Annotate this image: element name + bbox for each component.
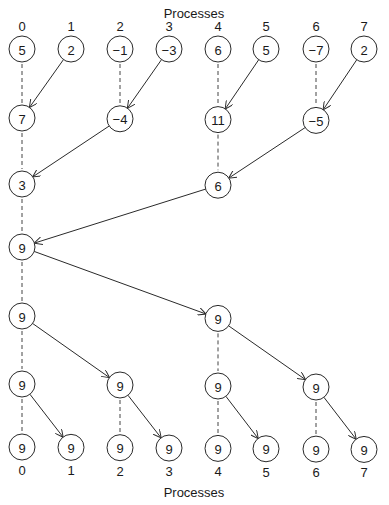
process-node: 11 [205, 107, 231, 133]
process-node: 9 [156, 435, 182, 461]
node-value: −4 [113, 112, 128, 127]
process-node: 9 [58, 434, 84, 460]
process-node: −3 [156, 36, 182, 62]
process-node: 7 [9, 105, 35, 131]
bottom-process-label: 5 [262, 465, 269, 480]
bottom-process-labels: 01234567 [18, 463, 367, 480]
node-value: 9 [18, 378, 25, 393]
node-value: 9 [312, 443, 319, 458]
reduction-broadcast-diagram: Processes Processes 52−1−365−727−411−536… [0, 0, 389, 505]
process-node: 9 [303, 374, 329, 400]
process-nodes: 52−1−365−727−411−536999999999999999 [9, 36, 377, 462]
bottom-process-label: 6 [312, 465, 319, 480]
node-value: 9 [214, 380, 221, 395]
process-node: 9 [9, 371, 35, 397]
node-value: 9 [360, 443, 367, 458]
node-value: 9 [18, 441, 25, 456]
message-arrow [33, 126, 109, 177]
node-value: 5 [18, 43, 25, 58]
top-process-label: 2 [116, 19, 123, 34]
process-node: 9 [205, 435, 231, 461]
node-value: 9 [214, 442, 221, 457]
node-value: −7 [309, 43, 324, 58]
node-value: 9 [18, 241, 25, 256]
node-value: 11 [211, 113, 225, 128]
process-node: 9 [253, 436, 279, 462]
process-node: 9 [303, 436, 329, 462]
node-value: 6 [214, 43, 221, 58]
top-process-label: 7 [360, 19, 367, 34]
node-value: −5 [309, 114, 324, 129]
message-arrow [324, 397, 356, 438]
local-carry-lines [22, 64, 316, 434]
message-arrow [229, 326, 305, 379]
process-node: −5 [303, 107, 329, 133]
bottom-process-label: 7 [360, 465, 367, 480]
node-value: 3 [18, 178, 25, 193]
node-value: 9 [67, 441, 74, 456]
process-node: 9 [205, 305, 231, 331]
node-value: 9 [116, 441, 123, 456]
message-arrow [229, 128, 305, 178]
node-value: 9 [116, 379, 123, 394]
process-node: 9 [9, 234, 35, 260]
process-node: 2 [58, 36, 84, 62]
node-value: 9 [262, 442, 269, 457]
message-arrow [30, 60, 64, 107]
node-value: −1 [113, 43, 128, 58]
node-value: 6 [214, 179, 221, 194]
bottom-process-label: 1 [67, 463, 74, 478]
message-arrow [226, 60, 259, 109]
process-node: 9 [9, 303, 35, 329]
message-arrow [30, 394, 63, 436]
bottom-process-label: 3 [165, 464, 172, 479]
message-arrow [226, 396, 258, 438]
top-process-label: 5 [262, 19, 269, 34]
process-node: 9 [107, 435, 133, 461]
process-node: −1 [107, 36, 133, 62]
node-value: 7 [18, 112, 25, 127]
node-value: 2 [360, 43, 367, 58]
message-arrow [34, 251, 205, 313]
process-node: 3 [9, 171, 35, 197]
node-value: 5 [262, 43, 269, 58]
node-value: 9 [165, 442, 172, 457]
process-node: 9 [351, 436, 377, 462]
bottom-process-label: 0 [18, 463, 25, 478]
process-node: 6 [205, 36, 231, 62]
bottom-process-label: 2 [116, 464, 123, 479]
top-process-labels: 01234567 [18, 19, 367, 34]
process-node: 5 [253, 36, 279, 62]
process-node: −4 [107, 106, 133, 132]
process-node: 9 [205, 373, 231, 399]
top-process-label: 4 [214, 19, 221, 34]
message-arrow [128, 60, 162, 108]
process-node: 5 [9, 36, 35, 62]
node-value: 9 [18, 310, 25, 325]
message-arrow [33, 323, 109, 377]
node-value: 2 [67, 43, 74, 58]
top-process-label: 6 [312, 19, 319, 34]
top-process-label: 1 [67, 19, 74, 34]
message-arrow [128, 395, 161, 437]
process-node: 9 [107, 372, 133, 398]
node-value: −3 [162, 43, 177, 58]
node-value: 9 [312, 381, 319, 396]
message-arrow [35, 189, 206, 243]
process-node: −7 [303, 36, 329, 62]
top-process-label: 3 [165, 19, 172, 34]
message-arrow [324, 60, 357, 109]
process-node: 6 [205, 172, 231, 198]
process-node: 9 [9, 434, 35, 460]
bottom-axis-title: Processes [164, 485, 225, 500]
bottom-process-label: 4 [214, 464, 221, 479]
node-value: 9 [214, 312, 221, 327]
top-process-label: 0 [18, 19, 25, 34]
process-node: 2 [351, 36, 377, 62]
